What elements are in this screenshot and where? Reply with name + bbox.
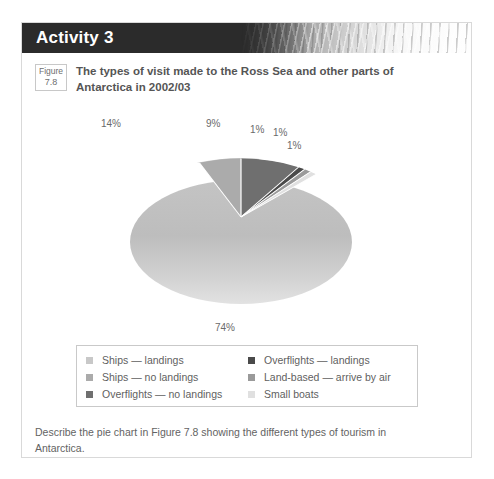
figure-caption-block: Figure 7.8 The types of visit made to th… xyxy=(35,63,445,95)
legend-item: Land-based — arrive by air xyxy=(248,369,413,385)
legend-swatch-icon xyxy=(86,357,93,364)
pie-label-1a: 1% xyxy=(250,124,264,135)
figure-caption-line-1: The types of visit made to the Ross Sea … xyxy=(76,65,380,77)
pie-label-9: 9% xyxy=(206,118,220,129)
activity-header-bar: Activity 3 xyxy=(22,23,471,53)
legend-label: Land-based — arrive by air xyxy=(264,371,391,383)
legend-swatch-icon xyxy=(86,374,93,381)
legend-swatch-icon xyxy=(86,391,93,398)
antarctic-ice-photo-icon xyxy=(241,23,471,53)
legend-label: Overflights — landings xyxy=(264,354,370,366)
figure-number-value: 7.8 xyxy=(36,77,66,88)
legend-label: Ships — no landings xyxy=(102,371,198,383)
legend-item: Overflights — landings xyxy=(248,352,413,368)
legend-item: Ships — no landings xyxy=(86,369,251,385)
activity-task-text: Describe the pie chart in Figure 7.8 sho… xyxy=(35,424,435,456)
activity-page: Activity 3 Figure 7.8 The types of visit… xyxy=(0,0,494,479)
legend-column-left: Ships — landings Ships — no landings Ove… xyxy=(86,352,251,403)
legend-label: Small boats xyxy=(264,388,319,400)
figure-number-label: Figure xyxy=(39,66,63,76)
legend-swatch-icon xyxy=(248,357,255,364)
page-title: Activity 3 xyxy=(36,23,114,53)
pie-label-14: 14% xyxy=(101,118,121,129)
legend-swatch-icon xyxy=(248,374,255,381)
legend-swatch-icon xyxy=(248,391,255,398)
figure-caption-text: The types of visit made to the Ross Sea … xyxy=(76,63,446,95)
legend-item: Overflights — no landings xyxy=(86,386,251,402)
legend-label: Overflights — no landings xyxy=(102,388,222,400)
pie-label-1b: 1% xyxy=(273,127,287,138)
pie-graphic xyxy=(130,140,352,320)
legend-item: Small boats xyxy=(248,386,413,402)
figure-number-box: Figure 7.8 xyxy=(35,64,67,91)
legend-column-right: Overflights — landings Land-based — arri… xyxy=(248,352,413,403)
pie-top-face xyxy=(130,158,352,276)
chart-legend: Ships — landings Ships — no landings Ove… xyxy=(76,345,418,407)
legend-item: Ships — landings xyxy=(86,352,251,368)
pie-chart: 14% 9% 1% 1% 1% 74% xyxy=(35,112,445,342)
legend-label: Ships — landings xyxy=(102,354,184,366)
pie-slices xyxy=(130,158,352,276)
pie-label-74: 74% xyxy=(215,322,235,333)
